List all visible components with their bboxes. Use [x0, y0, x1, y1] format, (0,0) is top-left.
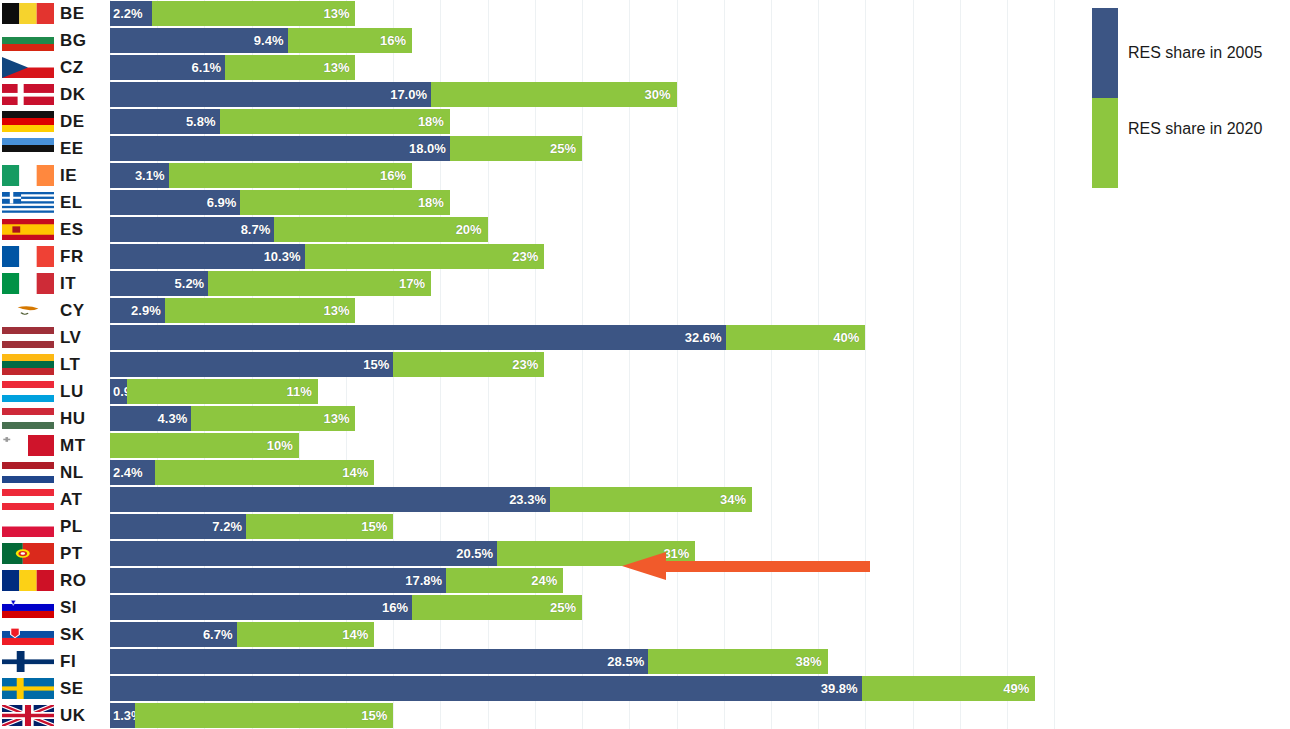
bar-2020-dk: 30%: [431, 82, 677, 107]
country-code-label: PL: [60, 513, 104, 540]
bar-value-label-2005: 23.3%: [509, 487, 546, 512]
bar-2020-es: 20%: [274, 217, 487, 242]
bar-2005-nl: 2.4%: [110, 460, 155, 485]
bar-value-label-2005: 18.0%: [409, 136, 446, 161]
flag-icon-it: [2, 273, 54, 294]
row-plot-area: 10.3%23%: [110, 243, 1290, 270]
chart-row-si: SI16%25%: [0, 594, 1290, 621]
bar-value-label-2005: 5.8%: [186, 109, 216, 134]
bar-2020-pl: 15%: [246, 514, 393, 539]
bar-value-label-2020: 16%: [380, 163, 406, 188]
flag-icon-lv: [2, 327, 54, 348]
legend-swatch-2005: [1092, 8, 1118, 98]
bar-value-label-2005: 32.6%: [685, 325, 722, 350]
bar-2005-ro: 17.8%: [110, 568, 446, 593]
bar-2020-fi: 38%: [648, 649, 827, 674]
bar-value-label-2020: 20%: [456, 217, 482, 242]
row-plot-area: 2.9%13%: [110, 297, 1290, 324]
bar-2020-de: 18%: [220, 109, 450, 134]
flag-icon-be: [2, 3, 54, 24]
bar-value-label-2005: 7.2%: [212, 514, 242, 539]
bar-value-label-2005: 9.4%: [254, 28, 284, 53]
flag-icon-bg: [2, 30, 54, 51]
country-code-label: NL: [60, 459, 104, 486]
bar-value-label-2020: 49%: [1003, 676, 1029, 701]
flag-icon-cz: [2, 57, 54, 78]
row-plot-area: 0.9%11%: [110, 378, 1290, 405]
bar-value-label-2005: 2.9%: [131, 298, 161, 323]
chart-legend: RES share in 2005 RES share in 2020: [1092, 8, 1282, 198]
row-plot-area: 1.3%15%: [110, 702, 1290, 729]
bar-value-label-2005: 5.2%: [175, 271, 205, 296]
bar-2020-nl: 14%: [155, 460, 374, 485]
country-code-label: LU: [60, 378, 104, 405]
bar-value-label-2020: 13%: [323, 298, 349, 323]
bar-value-label-2020: 15%: [361, 703, 387, 728]
bar-2020-cz: 13%: [225, 55, 355, 80]
bar-value-label-2020: 25%: [550, 136, 576, 161]
flag-icon-uk: [2, 705, 54, 726]
flag-icon-de: [2, 111, 54, 132]
bar-value-label-2020: 25%: [550, 595, 576, 620]
bar-value-label-2020: 13%: [323, 406, 349, 431]
flag-icon-fr: [2, 246, 54, 267]
flag-icon-es: [2, 219, 54, 240]
bar-value-label-2005: 17.8%: [405, 568, 442, 593]
bar-value-label-2020: 38%: [796, 649, 822, 674]
bar-2005-pt: 20.5%: [110, 541, 497, 566]
country-code-label: MT: [60, 432, 104, 459]
bar-2020-lv: 40%: [726, 325, 866, 350]
bar-2020-ie: 16%: [169, 163, 413, 188]
bar-2020-be: 13%: [152, 1, 356, 26]
country-code-label: UK: [60, 702, 104, 729]
bar-2005-uk: 1.3%: [110, 703, 135, 728]
bar-2005-hu: 4.3%: [110, 406, 191, 431]
chart-row-pl: PL7.2%15%: [0, 513, 1290, 540]
country-code-label: CZ: [60, 54, 104, 81]
legend-label-2005: RES share in 2005: [1128, 44, 1262, 62]
country-code-label: BE: [60, 0, 104, 27]
chart-row-se: SE39.8%49%: [0, 675, 1290, 702]
bar-value-label-2005: 17.0%: [390, 82, 427, 107]
flag-icon-ro: [2, 570, 54, 591]
flag-icon-hu: [2, 408, 54, 429]
bar-value-label-2005: 20.5%: [456, 541, 493, 566]
bar-2005-cy: 2.9%: [110, 298, 165, 323]
row-plot-area: 32.6%40%: [110, 324, 1290, 351]
flag-icon-cy: [2, 300, 54, 321]
bar-2005-pl: 7.2%: [110, 514, 246, 539]
bar-value-label-2005: 39.8%: [821, 676, 858, 701]
chart-row-fi: FI28.5%38%: [0, 648, 1290, 675]
bar-2005-bg: 9.4%: [110, 28, 288, 53]
legend-label-2020: RES share in 2020: [1128, 120, 1262, 138]
country-code-label: PT: [60, 540, 104, 567]
bar-value-label-2020: 23%: [512, 244, 538, 269]
bar-2020-sk: 14%: [237, 622, 375, 647]
row-plot-area: 8.7%20%: [110, 216, 1290, 243]
bar-2020-el: 18%: [240, 190, 450, 215]
bar-value-label-2020: 15%: [361, 514, 387, 539]
flag-icon-nl: [2, 462, 54, 483]
bar-value-label-2020: 30%: [645, 82, 671, 107]
bar-value-label-2020: 17%: [399, 271, 425, 296]
bar-2020-se: 49%: [862, 676, 1036, 701]
chart-row-fr: FR10.3%23%: [0, 243, 1290, 270]
bar-2005-it: 5.2%: [110, 271, 208, 296]
country-code-label: EL: [60, 189, 104, 216]
flag-icon-fi: [2, 651, 54, 672]
row-plot-area: 16%25%: [110, 594, 1290, 621]
bar-2005-lv: 32.6%: [110, 325, 726, 350]
bar-2005-de: 5.8%: [110, 109, 220, 134]
bar-2005-ee: 18.0%: [110, 136, 450, 161]
country-code-label: DE: [60, 108, 104, 135]
bar-value-label-2005: 3.1%: [135, 163, 165, 188]
bar-value-label-2005: 16%: [382, 595, 408, 620]
country-code-label: HU: [60, 405, 104, 432]
row-plot-area: 7.2%15%: [110, 513, 1290, 540]
bar-value-label-2005: 4.3%: [158, 406, 188, 431]
bar-2005-fr: 10.3%: [110, 244, 305, 269]
bar-value-label-2005: 8.7%: [241, 217, 271, 242]
bar-2020-mt: 10%: [110, 433, 299, 458]
bar-value-label-2020: 23%: [512, 352, 538, 377]
bar-2005-sk: 6.7%: [110, 622, 237, 647]
